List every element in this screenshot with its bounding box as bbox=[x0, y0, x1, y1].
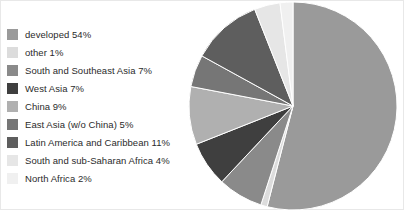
color-swatch bbox=[7, 65, 18, 76]
pie-chart-svg bbox=[187, 1, 404, 210]
legend-item-label: South and sub-Saharan Africa 4% bbox=[25, 155, 170, 166]
legend-item-label: West Asia 7% bbox=[25, 83, 84, 94]
legend-item: China 9% bbox=[7, 97, 183, 115]
chart-legend: developed 54%other 1%South and Southeast… bbox=[7, 25, 183, 187]
legend-item: East Asia (w/o China) 5% bbox=[7, 115, 183, 133]
pie-chart-area bbox=[187, 1, 404, 210]
color-swatch bbox=[7, 155, 18, 166]
legend-item-label: South and Southeast Asia 7% bbox=[25, 65, 152, 76]
legend-item-label: Latin America and Caribbean 11% bbox=[25, 137, 170, 148]
color-swatch bbox=[7, 83, 18, 94]
pie-slices-group bbox=[189, 2, 397, 210]
legend-item: Latin America and Caribbean 11% bbox=[7, 133, 183, 151]
legend-item-label: East Asia (w/o China) 5% bbox=[25, 119, 133, 130]
color-swatch bbox=[7, 137, 18, 148]
color-swatch bbox=[7, 101, 18, 112]
legend-item: developed 54% bbox=[7, 25, 183, 43]
legend-item: North Africa 2% bbox=[7, 169, 183, 187]
legend-item: South and sub-Saharan Africa 4% bbox=[7, 151, 183, 169]
color-swatch bbox=[7, 29, 18, 40]
color-swatch bbox=[7, 119, 18, 130]
legend-item-label: China 9% bbox=[25, 101, 67, 112]
legend-item-label: other 1% bbox=[25, 47, 63, 58]
pie-chart-figure: developed 54%other 1%South and Southeast… bbox=[0, 0, 404, 210]
legend-item: other 1% bbox=[7, 43, 183, 61]
legend-item-label: developed 54% bbox=[25, 29, 91, 40]
color-swatch bbox=[7, 47, 18, 58]
color-swatch bbox=[7, 173, 18, 184]
legend-item-label: North Africa 2% bbox=[25, 173, 92, 184]
legend-item: South and Southeast Asia 7% bbox=[7, 61, 183, 79]
legend-item: West Asia 7% bbox=[7, 79, 183, 97]
